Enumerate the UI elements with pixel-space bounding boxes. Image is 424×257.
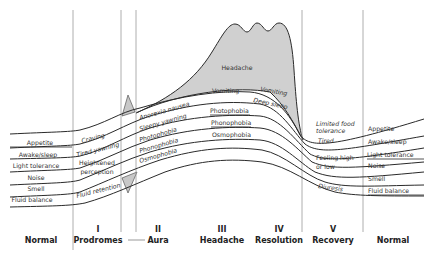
headache-osmophobia: Osmophobia [212,131,251,139]
phase-num-headache: III [218,225,227,234]
phase-num-resolution: IV [274,225,284,234]
right-label-fluid-balance: Fluid balance [368,187,409,194]
prodromes-heightened: Heightened [79,159,115,167]
right-label-smell: Smell [368,175,385,182]
phase-name-headache: Headache [200,236,245,245]
phase-name-recovery: Recovery [312,236,354,245]
recovery-tolerance: tolerance [316,127,345,134]
phase-name-normal-right: Normal [377,236,410,245]
recovery-limited-food: Limited food [316,120,355,127]
phase-num-aura: II [155,225,161,234]
curve-6 [10,148,424,197]
left-label-appetite: Appetite [27,139,53,147]
headache-phonophobia: Phonophobia [211,119,251,127]
headache-label: Headache [221,64,252,71]
phase-num-recovery: V [330,225,337,234]
recovery-feeling-high: Feeling high [316,154,354,162]
left-label-fluid-balance: Fluid balance [11,196,52,203]
phase-num-prodromes: I [97,225,100,234]
migraine-phase-diagram: Appetite Awake/sleep Light tolerance Noi… [0,0,424,257]
phase-name-normal-left: Normal [25,236,58,245]
left-label-smell: Smell [27,185,44,192]
phase-name-resolution: Resolution [255,236,303,245]
phase-name-prodromes: Prodromes [74,236,123,245]
headache-photophobia: Photophobia [210,107,249,115]
aura-lower-triangle [122,172,137,193]
headache-vomiting: Vomiting [212,87,239,95]
left-label-noise: Noise [27,174,44,181]
recovery-tired: Tired [318,137,334,144]
right-label-noise: Noise [368,162,385,169]
left-label-awake-sleep: Awake/sleep [19,151,58,159]
prodromes-perception-2: perception [80,168,113,176]
prodromes-craving: Craving [81,131,106,145]
right-label-light-tolerance: Light tolerance [367,151,414,159]
phase-name-aura: Aura [147,236,168,245]
left-label-light-tolerance: Light tolerance [13,162,60,170]
right-label-appetite: Appetite [368,125,394,133]
recovery-or-low: or low [316,163,335,170]
right-label-awake-sleep: Awake/sleep [368,138,407,146]
